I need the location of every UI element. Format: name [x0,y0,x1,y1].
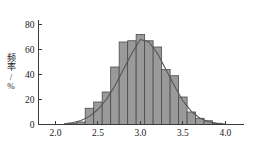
y-tick-label: 80 [25,20,35,30]
x-tick-label: 3.0 [134,128,146,138]
histogram-bar [136,35,144,125]
x-tick-label: 2.5 [92,128,104,138]
y-tick-label: 60 [25,45,35,55]
y-tick-label: 20 [25,95,35,105]
x-tick-label: 2.0 [50,128,62,138]
x-tick-label: 4.0 [219,128,231,138]
y-tick-label: 0 [30,120,35,130]
y-axis-label-char: % [7,81,15,91]
y-axis-label-char: 率 [7,61,16,72]
histogram-bars [68,35,221,125]
x-tick-label: 3.5 [177,128,189,138]
plot-canvas: 2.02.53.03.54.0 020406080 频率/% [0,0,260,152]
y-tick-label: 40 [25,70,35,80]
y-axis-label-char: 频 [7,52,16,63]
histogram-bar [145,41,153,125]
histogram-bar [119,42,127,125]
histogram-bar [170,76,178,125]
y-axis-label-char: / [10,72,13,82]
y-axis-ticks: 020406080 [25,20,42,130]
histogram-bar [102,92,110,125]
histogram-bar [111,67,119,125]
histogram-bar [162,70,170,125]
y-axis-label: 频率/% [7,52,16,92]
histogram-chart: 2.02.53.03.54.0 020406080 频率/% [0,0,260,152]
